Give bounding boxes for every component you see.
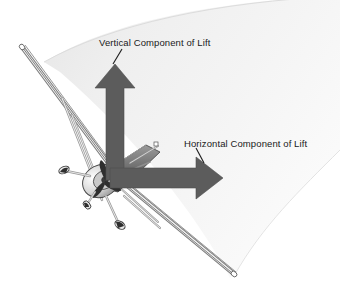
vertical-component-label: Vertical Component of Lift [99,37,210,48]
left-main-gear [58,165,90,176]
lift-components-diagram: Vertical Component of Lift Horizontal Co… [0,0,340,288]
right-main-gear [106,196,127,231]
horizontal-component-label: Horizontal Component of Lift [184,138,307,149]
